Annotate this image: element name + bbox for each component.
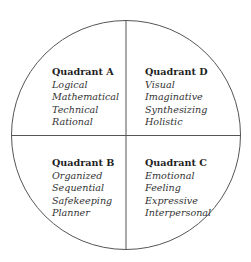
quadrant-d: Quadrant D Visual Imaginative Synthesizi… bbox=[145, 66, 208, 129]
quadrant-d-item: Imaginative bbox=[145, 91, 208, 104]
quadrant-b: Quadrant B Organized Sequential Safekeep… bbox=[52, 157, 114, 220]
quadrant-b-title: Quadrant B bbox=[52, 157, 114, 170]
quadrant-c: Quadrant C Emotional Feeling Expressive … bbox=[145, 157, 211, 220]
quadrant-b-item: Planner bbox=[52, 207, 114, 220]
quadrant-c-item: Emotional bbox=[145, 170, 211, 183]
quadrant-d-item: Synthesizing bbox=[145, 104, 208, 117]
quadrant-a-item: Mathematical bbox=[52, 91, 119, 104]
quadrant-c-item: Feeling bbox=[145, 182, 211, 195]
quadrant-b-item: Sequential bbox=[52, 182, 114, 195]
circle-outline bbox=[0, 0, 251, 262]
quadrant-d-title: Quadrant D bbox=[145, 66, 208, 79]
quadrant-d-item: Holistic bbox=[145, 116, 208, 129]
quadrant-c-item: Interpersonal bbox=[145, 207, 211, 220]
quadrant-a-title: Quadrant A bbox=[52, 66, 119, 79]
quadrant-d-item: Visual bbox=[145, 79, 208, 92]
quadrant-a-item: Logical bbox=[52, 79, 119, 92]
quadrant-b-item: Safekeeping bbox=[52, 195, 114, 208]
quadrant-b-item: Organized bbox=[52, 170, 114, 183]
quadrant-a: Quadrant A Logical Mathematical Technica… bbox=[52, 66, 119, 129]
quadrant-circle-diagram: Quadrant A Logical Mathematical Technica… bbox=[0, 0, 251, 262]
quadrant-c-title: Quadrant C bbox=[145, 157, 211, 170]
quadrant-a-item: Technical bbox=[52, 104, 119, 117]
quadrant-c-item: Expressive bbox=[145, 195, 211, 208]
quadrant-a-item: Rational bbox=[52, 116, 119, 129]
